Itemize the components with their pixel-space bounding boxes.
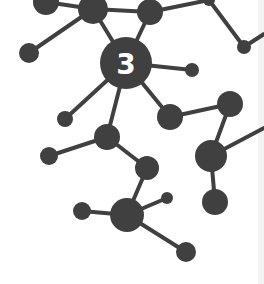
atom-node <box>73 202 91 220</box>
atom-node <box>195 140 227 172</box>
atom-node <box>40 147 58 165</box>
atom-node <box>161 192 173 204</box>
atom-node <box>237 40 251 54</box>
atom-node <box>19 43 39 63</box>
atom-node <box>94 124 120 150</box>
molecule-diagram: 3 <box>0 0 264 284</box>
network-graph: 3 <box>0 0 264 284</box>
atom-node <box>185 63 199 77</box>
bond-line <box>209 0 244 47</box>
atom-node <box>217 91 243 117</box>
atom-node <box>157 104 183 130</box>
atom-node <box>33 0 59 15</box>
atom-node <box>202 189 228 215</box>
atom-node <box>137 0 163 25</box>
atom-node <box>57 111 73 127</box>
atom-node <box>176 242 196 262</box>
atom-nodes <box>19 0 251 262</box>
atom-node <box>135 156 159 180</box>
center-node-label: 3 <box>116 48 135 81</box>
atom-node <box>110 198 144 232</box>
atom-node <box>78 0 108 24</box>
